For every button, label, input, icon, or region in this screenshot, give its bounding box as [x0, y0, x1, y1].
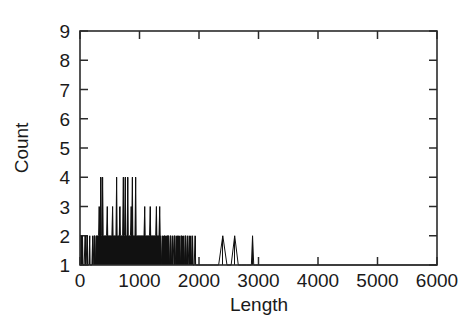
x-axis-title: Length	[230, 294, 288, 315]
y-tick-label: 8	[59, 50, 70, 71]
y-tick-label: 7	[59, 80, 70, 101]
x-tick-label: 0	[75, 270, 86, 291]
y-axis-title: Count	[11, 122, 32, 173]
chart-figure: 123456789 0100020003000400050006000 Coun…	[0, 0, 473, 328]
y-tick-label: 5	[59, 138, 70, 159]
y-tick-label: 2	[59, 226, 70, 247]
y-tick-label: 3	[59, 197, 70, 218]
x-tick-label: 2000	[178, 270, 220, 291]
histogram-plot: 123456789 0100020003000400050006000 Coun…	[0, 0, 473, 328]
y-tick-label: 9	[59, 21, 70, 42]
y-tick-label: 6	[59, 109, 70, 130]
x-tick-label: 6000	[416, 270, 458, 291]
x-tick-label: 1000	[118, 270, 160, 291]
x-tick-label: 4000	[297, 270, 339, 291]
y-axis-tick-labels: 123456789	[59, 21, 70, 276]
y-tick-label: 4	[59, 167, 70, 188]
y-tick-label: 1	[59, 255, 70, 276]
x-tick-label: 3000	[237, 270, 279, 291]
x-tick-label: 5000	[356, 270, 398, 291]
